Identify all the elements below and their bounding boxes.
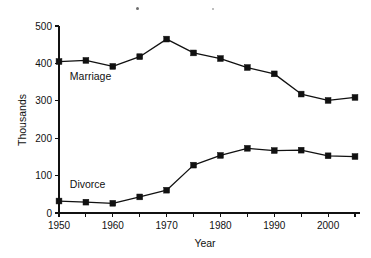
divorce-data-point <box>56 198 62 204</box>
marriage-data-point <box>83 58 89 64</box>
marriage-series-label: Marriage <box>70 70 112 82</box>
chart-figure: 0100200300400500 19501960197019801990200… <box>0 0 371 258</box>
y-tick-label: 500 <box>35 21 52 32</box>
y-axis-title: Thousands <box>16 94 28 146</box>
marriage-data-point <box>164 36 170 42</box>
y-tick-label: 300 <box>35 95 52 106</box>
divorce-data-point <box>110 200 116 206</box>
divorce-data-point <box>325 153 331 159</box>
marriage-data-point <box>110 63 116 69</box>
scan-artifact-dot <box>136 7 139 10</box>
y-tick-label: 0 <box>46 208 52 219</box>
marriage-data-point <box>298 91 304 97</box>
divorce-data-point <box>164 187 170 193</box>
y-tick-label: 400 <box>35 58 52 69</box>
marriage-data-point <box>137 54 143 60</box>
marriage-data-point <box>325 98 331 104</box>
x-axis-ticks <box>59 213 355 217</box>
divorce-series-line <box>59 148 355 203</box>
y-tick-label: 200 <box>35 133 52 144</box>
x-tick-label: 1960 <box>102 220 125 231</box>
marriage-data-point <box>244 65 250 71</box>
divorce-series-markers <box>56 145 358 206</box>
marriage-data-point <box>352 95 358 101</box>
divorce-series-label: Divorce <box>70 178 106 190</box>
line-chart-plot: 0100200300400500 19501960197019801990200… <box>0 0 371 258</box>
y-tick-label: 100 <box>35 170 52 181</box>
x-axis-title: Year <box>194 237 216 249</box>
x-axis-tick-labels: 195019601970198019902000 <box>48 220 340 231</box>
x-tick-label: 1990 <box>263 220 286 231</box>
divorce-data-point <box>83 199 89 205</box>
marriage-data-point <box>218 56 224 62</box>
x-tick-label: 1950 <box>48 220 71 231</box>
x-tick-label: 1970 <box>156 220 179 231</box>
x-tick-label: 2000 <box>317 220 340 231</box>
divorce-data-point <box>298 147 304 153</box>
divorce-data-point <box>191 162 197 168</box>
marriage-data-point <box>191 50 197 56</box>
x-tick-label: 1980 <box>209 220 232 231</box>
divorce-data-point <box>271 148 277 154</box>
divorce-data-point <box>352 154 358 160</box>
divorce-data-point <box>218 153 224 159</box>
divorce-data-point <box>137 194 143 200</box>
scan-artifact-dot <box>212 8 214 10</box>
y-axis-tick-labels: 0100200300400500 <box>35 21 52 219</box>
marriage-data-point <box>56 59 62 65</box>
divorce-data-point <box>244 145 250 151</box>
marriage-data-point <box>271 71 277 77</box>
